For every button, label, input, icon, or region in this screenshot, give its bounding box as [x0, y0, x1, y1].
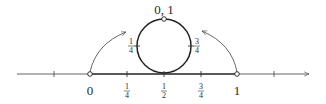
svg-text:1: 1: [125, 82, 129, 91]
point-one-open: [235, 72, 240, 77]
unit-interval-circle-diagram: 0, 1 1 4 3 4 0 1 4 1 2 3 4 1: [0, 0, 326, 104]
svg-text:3: 3: [195, 37, 199, 46]
svg-text:4: 4: [195, 46, 199, 55]
circle-left-label: 1 4: [128, 37, 134, 55]
arrow-one-to-circle: [202, 31, 237, 72]
svg-text:4: 4: [129, 46, 133, 55]
point-zero-open: [88, 72, 93, 77]
svg-text:4: 4: [199, 91, 203, 100]
circle-top-label: 0, 1: [154, 2, 174, 17]
label-one: 1: [234, 83, 241, 98]
svg-text:3: 3: [199, 82, 203, 91]
svg-text:4: 4: [125, 91, 129, 100]
label-half: 1 2: [161, 82, 167, 100]
wrapped-circle: [137, 19, 191, 73]
svg-text:1: 1: [129, 37, 133, 46]
svg-text:2: 2: [162, 91, 166, 100]
arrow-zero-to-circle: [90, 32, 126, 72]
svg-text:1: 1: [162, 82, 166, 91]
circle-right-label: 3 4: [194, 37, 200, 55]
circle-top-point: [162, 17, 167, 22]
label-zero: 0: [87, 83, 94, 98]
label-quarter: 1 4: [124, 82, 130, 100]
label-three-quarters: 3 4: [198, 82, 204, 100]
